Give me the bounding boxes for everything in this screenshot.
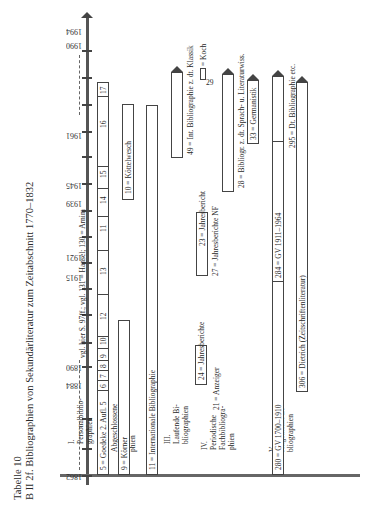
personal-wavy-line	[79, 360, 80, 470]
koettelwesch-label: 10 = Köttelwesch	[124, 141, 133, 194]
tick	[82, 50, 92, 52]
dtbib-bar	[272, 76, 284, 142]
section-line: graphien	[85, 398, 94, 444]
ib-label: 11 = Internationale Bibliographie	[148, 370, 157, 470]
section-line: bliographien	[286, 406, 295, 452]
goedeke-cell: 17	[99, 87, 108, 95]
arrow-up-icon	[171, 66, 183, 72]
goedeke-cell: 10	[99, 338, 108, 346]
gv1911-label: 284 = GV 1911–1964	[274, 213, 283, 278]
arrow-up-icon	[296, 76, 308, 82]
section-number: I.	[67, 398, 76, 444]
section-line: bliographien	[181, 404, 190, 444]
koerner-label: 9 = Körner	[120, 437, 129, 470]
germanistik-label: 33 = Germanistik	[249, 87, 258, 140]
year-label: 1939	[66, 199, 82, 208]
section-line: Fachbibliogra-	[218, 406, 227, 450]
goedeke-cell: 12	[99, 313, 108, 321]
bibl28-label: 28 = Bibliogr. z. dt. Sprach- u. Literat…	[237, 53, 246, 188]
tick	[82, 156, 92, 158]
bibl28-bar	[222, 74, 234, 192]
section-line: Periodische	[209, 406, 218, 450]
tick	[82, 448, 92, 450]
jb23-label: 23 = Jahresbericht	[198, 191, 207, 246]
personal-wavy-line-top	[79, 55, 80, 115]
section-line: Laufende Bi-	[172, 404, 181, 444]
gv1700-label: 280 = GV 1700–1910	[274, 404, 283, 470]
year-label: 1862	[66, 472, 82, 481]
arrow-up-icon	[272, 70, 284, 76]
table-title: B II 2f. Bibliographien von Sekundärlite…	[24, 182, 35, 500]
year-label: 1990	[66, 41, 82, 50]
goedeke-cell: 8	[99, 364, 108, 368]
tick	[82, 77, 92, 79]
tick	[82, 131, 92, 133]
section-number: IV.	[200, 406, 209, 450]
year-label: 1945	[66, 181, 82, 190]
goedeke-cell: 11	[99, 225, 108, 232]
year-label: 1994	[66, 27, 82, 36]
tick	[82, 475, 92, 477]
arrow-up-icon	[247, 74, 259, 80]
goedeke-cell: 7	[99, 374, 108, 378]
tick	[82, 104, 92, 106]
section-number: III.	[163, 404, 172, 444]
section-line: phien	[227, 406, 236, 450]
jbnf-label: 27 = Jahresberichte NF	[211, 206, 220, 276]
goedeke-label: 5 = Goedeke 2. Aufl. 5	[99, 401, 108, 470]
arrow-up-icon	[222, 68, 234, 74]
axis-arrow-icon	[81, 12, 93, 18]
anzeiger-label: 21 = Anzeiger	[212, 367, 221, 410]
goedeke-cell: 16	[99, 121, 108, 129]
klassik-bar	[171, 72, 183, 158]
goedeke-cell: 15	[99, 171, 108, 179]
koch-number: 29	[206, 78, 214, 87]
goedeke-cell: 14	[99, 197, 108, 205]
goedeke-cell: 6	[99, 384, 108, 388]
personal-note: vgl. hier S. 97ff.; vgl. 131 = Hansel; 1…	[78, 209, 87, 358]
koch-label: = Koch	[199, 44, 208, 66]
klassik-label: 49 = Int. Bibliographie z. dt. Klassik	[186, 45, 195, 155]
table-number: Tabelle 10	[12, 456, 23, 500]
year-label: 1961	[66, 131, 82, 140]
tick	[82, 183, 92, 185]
jb24-label: 24 = Jahresberichte	[197, 322, 206, 380]
goedeke-cell: 13	[99, 268, 108, 276]
dietrich-label: 306 = Dietrich (Zeitschriftenliteratur)	[298, 275, 307, 388]
tick	[82, 366, 92, 368]
section-line: Personalbiblio-	[76, 398, 85, 444]
goedeke-cell: 9	[99, 354, 108, 358]
